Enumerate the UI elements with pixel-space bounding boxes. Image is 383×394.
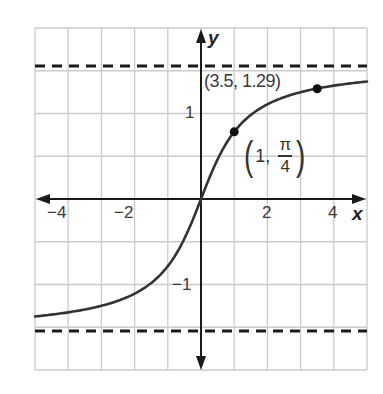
y-tick-label-1: 1: [185, 104, 194, 121]
y-axis-down-arrow-icon: [196, 356, 206, 370]
x-tick-label-neg4: −4: [47, 204, 66, 221]
point-1-pi-over-4: [230, 127, 239, 136]
point-3-5-1-29: [313, 84, 322, 93]
point-label-1-pi-over-4: ( 1, π 4 ): [242, 136, 308, 176]
fraction-numerator: π: [279, 136, 291, 154]
point-b-x: 1,: [255, 146, 270, 167]
y-tick-label-neg1: −1: [172, 276, 191, 293]
paren-close: ): [296, 136, 305, 176]
x-tick-label-neg2: −2: [114, 204, 133, 221]
fraction-pi-over-4: π 4: [278, 136, 292, 175]
paren-open: (: [244, 136, 253, 176]
x-tick-label-4: 4: [328, 204, 337, 221]
y-axis-up-arrow-icon: [196, 29, 206, 43]
point-label-3-5-1-29: (3.5, 1.29): [204, 72, 281, 90]
x-tick-label-2: 2: [262, 204, 271, 221]
arctan-plot: [0, 0, 383, 394]
fraction-denominator: 4: [281, 158, 290, 176]
y-axis-label: y: [208, 28, 219, 47]
x-axis-label: x: [352, 204, 363, 223]
